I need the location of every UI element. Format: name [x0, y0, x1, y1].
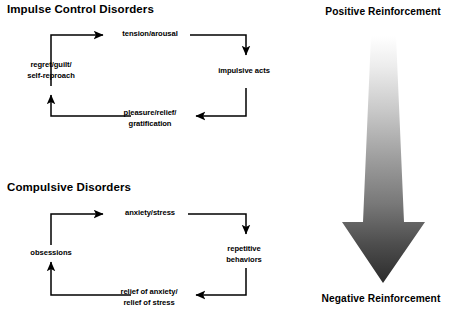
cycle-title-compulsive: Compulsive Disorders — [7, 181, 131, 193]
diagram-canvas — [0, 0, 465, 314]
node-repetitive-behaviors-line2: behaviors — [205, 255, 283, 266]
node-relief-of-anxiety-line1: relief of anxiety/ — [104, 287, 194, 298]
node-relief-of-anxiety: relief of anxiety/ relief of stress — [104, 287, 194, 308]
node-regret-self-reproach: regret/guilt/ self-reproach — [6, 60, 96, 81]
node-pleasure-gratification-line2: gratification — [106, 119, 194, 130]
node-repetitive-behaviors-line1: repetitive — [205, 244, 283, 255]
node-obsessions: obsessions — [8, 248, 94, 257]
node-pleasure-gratification: pleasure/relief/ gratification — [106, 108, 194, 129]
diagram-figure: Impulse Control Disorders tension/arousa… — [0, 0, 465, 314]
node-regret-self-reproach-line1: regret/guilt/ — [6, 60, 96, 71]
arrow-anxiety-to-repetitive — [188, 214, 246, 234]
node-tension-arousal: tension/arousal — [106, 29, 194, 38]
arrow-repetitive-to-relief — [196, 268, 246, 295]
label-positive-reinforcement: Positive Reinforcement — [295, 6, 465, 17]
node-repetitive-behaviors: repetitive behaviors — [205, 244, 283, 265]
node-tension-arousal-line1: tension/arousal — [106, 29, 194, 38]
node-anxiety-stress: anxiety/stress — [106, 208, 194, 217]
label-negative-reinforcement: Negative Reinforcement — [293, 293, 465, 304]
node-impulsive-acts: impulsive acts — [203, 66, 285, 75]
reinforcement-gradient-arrow — [342, 36, 425, 283]
arrow-obsessions-to-anxiety — [51, 214, 103, 245]
cycle-title-impulse-control: Impulse Control Disorders — [7, 3, 154, 15]
arrow-tension-to-impulsive — [190, 35, 246, 55]
node-impulsive-acts-line1: impulsive acts — [203, 66, 285, 75]
node-anxiety-stress-line1: anxiety/stress — [106, 208, 194, 217]
node-pleasure-gratification-line1: pleasure/relief/ — [106, 108, 194, 119]
arrow-impulsive-to-pleasure — [196, 88, 246, 116]
node-relief-of-anxiety-line2: relief of stress — [104, 298, 194, 309]
node-obsessions-line1: obsessions — [8, 248, 94, 257]
node-regret-self-reproach-line2: self-reproach — [6, 71, 96, 82]
